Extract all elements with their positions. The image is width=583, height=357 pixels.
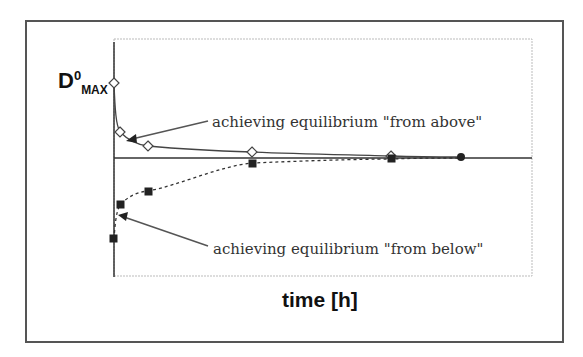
annotation-from-below: achieving equilibrium "from below" xyxy=(213,240,483,258)
equilibrium-point xyxy=(457,153,465,161)
square-marker xyxy=(145,188,152,195)
square-marker xyxy=(117,201,124,208)
square-marker xyxy=(249,160,256,167)
square-marker xyxy=(388,155,395,162)
square-marker xyxy=(110,235,117,242)
y-label-sub: MAX xyxy=(81,83,108,97)
annotation-from-above: achieving equilibrium "from above" xyxy=(212,113,482,131)
x-axis-label: time [h] xyxy=(282,288,358,312)
y-axis-label: D0MAX xyxy=(58,68,108,95)
y-label-base: D xyxy=(58,68,74,93)
y-label-sup: 0 xyxy=(74,68,81,83)
